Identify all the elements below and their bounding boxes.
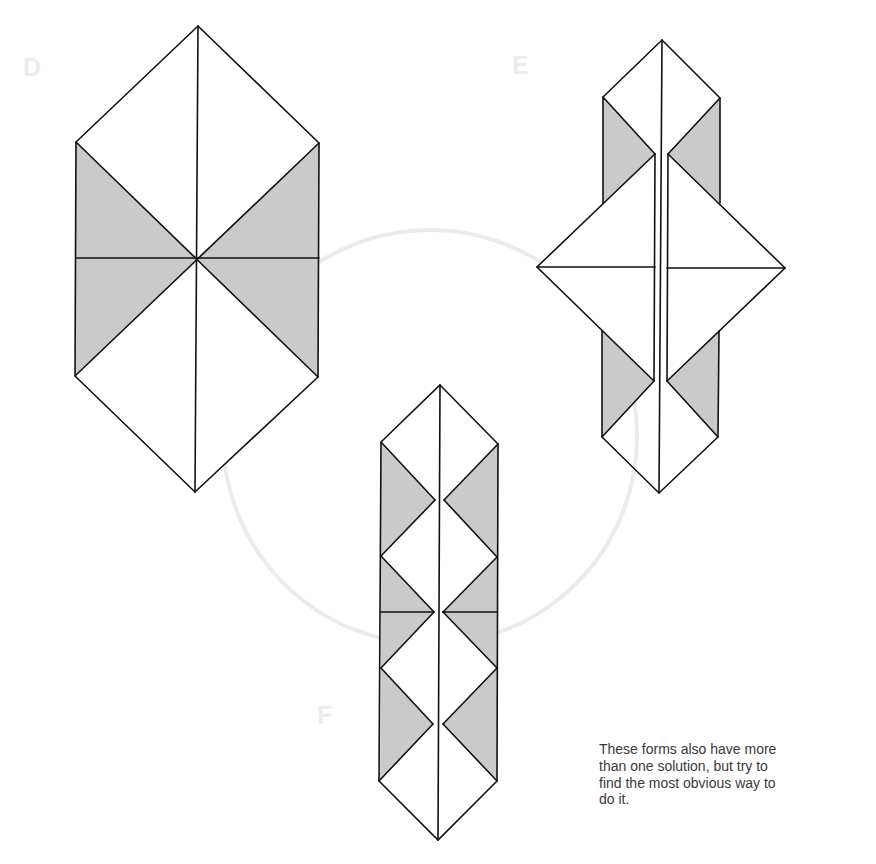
label-d: D [23, 55, 41, 80]
caption-line: These forms also have more [599, 741, 874, 758]
label-f: F [317, 703, 332, 728]
caption-line: than one solution, but try to [599, 758, 874, 775]
shape-d-hexagon [75, 26, 319, 492]
fold-line [659, 40, 662, 493]
diagram-canvas [0, 0, 876, 864]
label-e: E [512, 53, 529, 78]
shape-e-figure [537, 40, 785, 493]
shape-f-column [379, 385, 498, 840]
puzzle-page: D E F These forms also have more than on… [0, 0, 876, 864]
instruction-caption: These forms also have more than one solu… [599, 741, 874, 808]
caption-line: do it. [599, 791, 874, 808]
caption-line: find the most obvious way to [599, 775, 874, 792]
